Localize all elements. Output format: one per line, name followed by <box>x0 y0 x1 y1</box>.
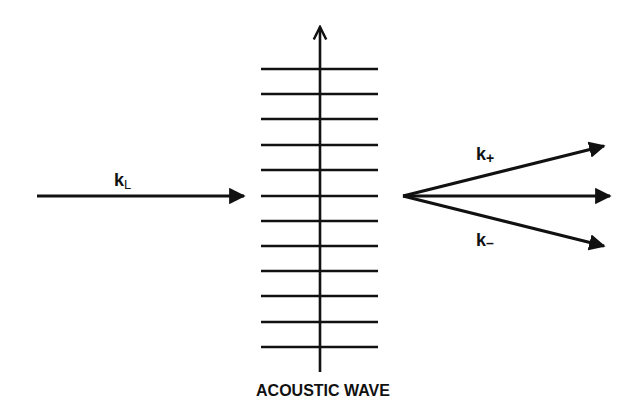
diffracted-plus-arrow <box>403 146 604 196</box>
k-minus-label: k– <box>476 230 494 251</box>
incident-wavevector-label: kL <box>114 170 131 192</box>
acousto-optic-diagram: kL k+ k– ACOUSTIC WAVE <box>0 0 640 418</box>
diffracted-minus-arrow <box>403 196 604 246</box>
diffracted-beams <box>403 146 610 246</box>
k-plus-label: k+ <box>476 144 494 166</box>
acoustic-wave-caption: ACOUSTIC WAVE <box>256 382 390 399</box>
